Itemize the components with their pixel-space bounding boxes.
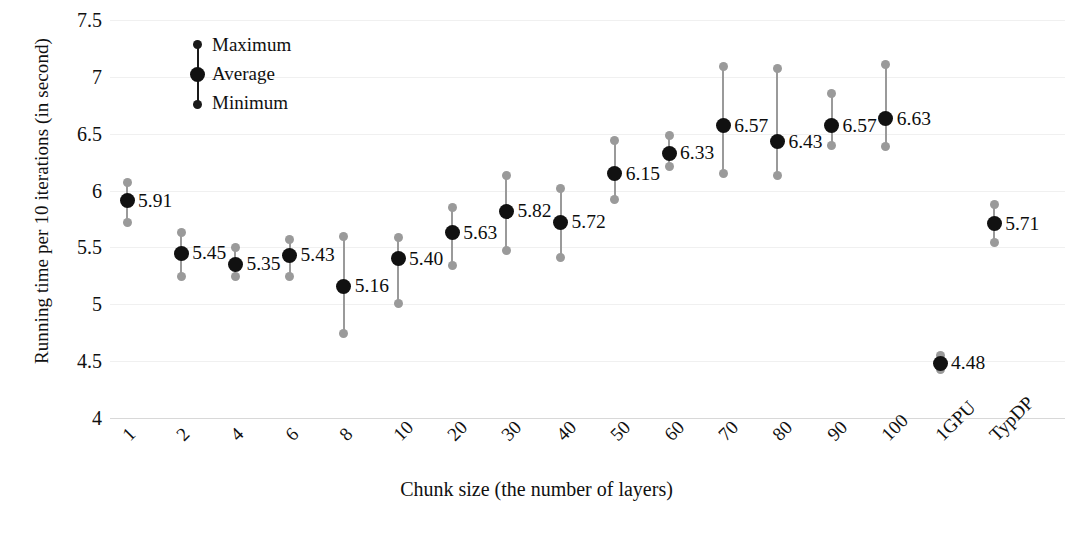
y-tick-label: 5 — [56, 293, 102, 316]
point-value-label: 5.43 — [301, 244, 335, 266]
average-marker — [607, 166, 622, 181]
y-tick-label: 7.5 — [56, 9, 102, 32]
gridline — [110, 361, 1065, 362]
minimum-marker — [448, 261, 457, 270]
gridline — [110, 134, 1065, 135]
maximum-marker — [339, 232, 348, 241]
y-tick-label: 5.5 — [56, 236, 102, 259]
average-marker — [391, 251, 406, 266]
average-marker — [933, 356, 948, 371]
maximum-marker — [231, 243, 240, 252]
maximum-marker — [665, 131, 674, 140]
point-value-label: 5.71 — [1005, 213, 1039, 235]
maximum-marker — [502, 171, 511, 180]
gridline — [110, 191, 1065, 192]
legend-maximum-marker — [193, 40, 202, 49]
point-value-label: 5.35 — [246, 253, 280, 275]
minimum-marker — [827, 141, 836, 150]
legend: Maximum Average Minimum — [188, 32, 368, 120]
maximum-marker — [285, 235, 294, 244]
point-value-label: 5.40 — [409, 248, 443, 270]
point-value-label: 5.16 — [355, 275, 389, 297]
running-time-chart: Running time per 10 iterations (in secon… — [0, 0, 1073, 536]
minimum-marker — [556, 253, 565, 262]
legend-average-marker — [190, 67, 205, 82]
minimum-marker — [990, 238, 999, 247]
whisker-line — [885, 64, 887, 146]
minimum-marker — [394, 299, 403, 308]
maximum-marker — [556, 184, 565, 193]
average-marker — [120, 193, 135, 208]
average-marker — [228, 257, 243, 272]
maximum-marker — [123, 178, 132, 187]
maximum-marker — [773, 64, 782, 73]
whisker-line — [397, 237, 399, 303]
point-value-label: 5.72 — [572, 211, 606, 233]
whisker-line — [776, 69, 778, 176]
point-value-label: 6.57 — [843, 115, 877, 137]
point-value-label: 6.33 — [680, 142, 714, 164]
y-axis-tick-labels: 44.555.566.577.5 — [56, 0, 102, 536]
minimum-marker — [773, 171, 782, 180]
minimum-marker — [665, 162, 674, 171]
minimum-marker — [231, 272, 240, 281]
maximum-marker — [394, 233, 403, 242]
point-value-label: 6.63 — [897, 108, 931, 130]
average-marker — [282, 248, 297, 263]
legend-label-average: Average — [212, 63, 275, 85]
point-value-label: 6.57 — [734, 115, 768, 137]
point-value-label: 5.63 — [463, 222, 497, 244]
average-marker — [987, 216, 1002, 231]
y-tick-label: 4 — [56, 407, 102, 430]
x-axis-line — [110, 418, 1065, 419]
average-marker — [770, 134, 785, 149]
x-axis-title: Chunk size (the number of layers) — [0, 478, 1073, 501]
point-value-label: 5.82 — [517, 200, 551, 222]
y-tick-label: 4.5 — [56, 350, 102, 373]
average-marker — [174, 246, 189, 261]
minimum-marker — [285, 272, 294, 281]
legend-label-maximum: Maximum — [212, 34, 291, 56]
maximum-marker — [177, 228, 186, 237]
maximum-marker — [610, 136, 619, 145]
maximum-marker — [990, 200, 999, 209]
y-tick-label: 7 — [56, 65, 102, 88]
maximum-marker — [448, 203, 457, 212]
point-value-label: 6.43 — [788, 131, 822, 153]
gridline — [110, 304, 1065, 305]
gridline — [110, 247, 1065, 248]
legend-minimum-marker — [193, 100, 202, 109]
average-marker — [878, 111, 893, 126]
maximum-marker — [827, 89, 836, 98]
maximum-marker — [881, 60, 890, 69]
point-value-label: 4.48 — [951, 352, 985, 374]
average-marker — [336, 279, 351, 294]
minimum-marker — [339, 329, 348, 338]
average-marker — [716, 118, 731, 133]
y-axis-title: Running time per 10 iterations (in secon… — [31, 0, 53, 411]
average-marker — [824, 118, 839, 133]
point-value-label: 6.15 — [626, 163, 660, 185]
point-value-label: 5.45 — [192, 242, 226, 264]
minimum-marker — [719, 169, 728, 178]
average-marker — [499, 204, 514, 219]
y-tick-label: 6.5 — [56, 122, 102, 145]
maximum-marker — [719, 62, 728, 71]
minimum-marker — [502, 246, 511, 255]
average-marker — [553, 215, 568, 230]
point-value-label: 5.91 — [138, 190, 172, 212]
minimum-marker — [123, 218, 132, 227]
average-marker — [445, 225, 460, 240]
minimum-marker — [177, 272, 186, 281]
minimum-marker — [881, 142, 890, 151]
gridline — [110, 20, 1065, 21]
legend-label-minimum: Minimum — [212, 92, 288, 114]
minimum-marker — [610, 195, 619, 204]
y-tick-label: 6 — [56, 179, 102, 202]
average-marker — [662, 146, 677, 161]
